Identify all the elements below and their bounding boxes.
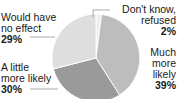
- label-dont-know: Don't know, refused 2%: [122, 4, 176, 37]
- label-little-more-likely: A little more likely 30%: [1, 62, 51, 95]
- label-much-more-likely: Much more likely 39%: [150, 47, 176, 91]
- label-no-effect: Would have no effect 29%: [1, 12, 56, 45]
